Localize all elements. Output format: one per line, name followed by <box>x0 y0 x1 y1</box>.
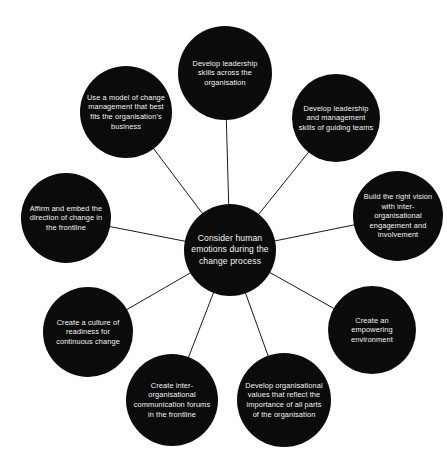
node-build-right-vision[interactable]: Build the right vision with inter-organi… <box>353 171 443 261</box>
node-develop-leadership-skills[interactable]: Develop leadership skills across the org… <box>178 26 272 120</box>
node-label-create-empowering-environment: Create an empowering environment <box>328 316 416 345</box>
node-label-hub: Consider human emotions during the chang… <box>184 233 276 267</box>
connector-create-empowering-environment <box>269 272 334 309</box>
connector-develop-leadership-management-skills <box>258 152 309 215</box>
node-label-create-culture-of-readiness: Create a culture of readiness for contin… <box>43 318 133 347</box>
node-develop-organisational-values[interactable]: Develop organisational values that refle… <box>237 353 331 447</box>
node-label-develop-organisational-values: Develop organisational values that refle… <box>237 381 331 419</box>
node-label-develop-leadership-management-skills: Develop leadership and management skills… <box>292 104 380 133</box>
connector-develop-leadership-skills <box>226 119 228 205</box>
node-label-use-model-of-change-management: Use a model of change management that be… <box>80 93 172 131</box>
node-label-create-communication-forums: Create inter-organisational communicatio… <box>126 381 218 419</box>
node-create-empowering-environment[interactable]: Create an empowering environment <box>328 286 416 374</box>
node-label-affirm-embed-direction: Affirm and embed the direction of change… <box>21 204 111 233</box>
connector-develop-organisational-values <box>245 292 268 356</box>
connector-use-model-of-change-management <box>153 148 203 214</box>
diagram-canvas: Consider human emotions during the chang… <box>0 0 447 467</box>
connector-create-culture-of-readiness <box>126 273 191 310</box>
node-hub[interactable]: Consider human emotions during the chang… <box>184 204 276 296</box>
node-create-culture-of-readiness[interactable]: Create a culture of readiness for contin… <box>43 287 133 377</box>
connector-affirm-embed-direction <box>109 226 186 241</box>
node-develop-leadership-management-skills[interactable]: Develop leadership and management skills… <box>292 74 380 162</box>
connector-build-right-vision <box>274 225 355 241</box>
connector-create-communication-forums <box>188 292 214 358</box>
node-use-model-of-change-management[interactable]: Use a model of change management that be… <box>80 66 172 158</box>
node-create-communication-forums[interactable]: Create inter-organisational communicatio… <box>126 354 218 446</box>
node-label-build-right-vision: Build the right vision with inter-organi… <box>353 192 443 240</box>
node-affirm-embed-direction[interactable]: Affirm and embed the direction of change… <box>21 173 111 263</box>
node-label-develop-leadership-skills: Develop leadership skills across the org… <box>178 59 272 88</box>
